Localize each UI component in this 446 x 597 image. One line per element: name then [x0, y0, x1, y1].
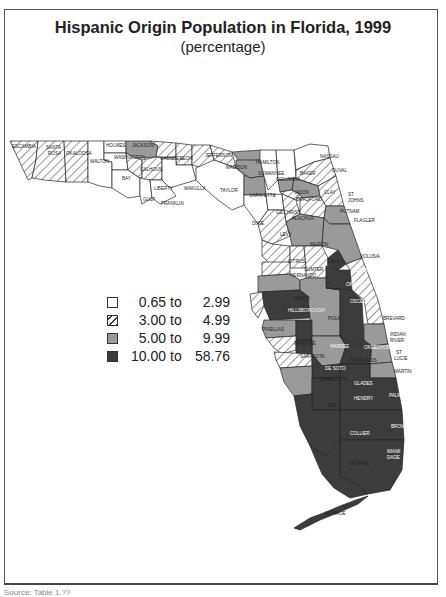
- svg-text:ESCAMBIA: ESCAMBIA: [12, 144, 37, 149]
- svg-text:CLAY: CLAY: [324, 190, 336, 195]
- svg-text:GULF: GULF: [143, 197, 155, 202]
- svg-text:MADISON: MADISON: [226, 165, 247, 170]
- svg-text:BAKER: BAKER: [300, 171, 316, 176]
- county-martin: [370, 362, 396, 378]
- svg-text:SUMTER: SUMTER: [304, 267, 324, 272]
- svg-text:GLADES: GLADES: [354, 381, 373, 386]
- county-citrus: [262, 240, 290, 264]
- svg-text:MONROE: MONROE: [325, 511, 346, 516]
- county-hillsborough: [262, 290, 310, 320]
- svg-text:RIVER: RIVER: [390, 338, 405, 343]
- svg-text:COLUMBIA: COLUMBIA: [276, 177, 301, 182]
- legend-swatch-light-gray: [107, 333, 118, 344]
- svg-text:DUVAL: DUVAL: [332, 168, 347, 173]
- svg-text:LIBERTY: LIBERTY: [154, 186, 173, 191]
- svg-text:POLK: POLK: [328, 316, 341, 321]
- svg-text:HARDEE: HARDEE: [330, 344, 349, 349]
- svg-text:SANTA: SANTA: [46, 145, 62, 150]
- svg-text:MONROE: MONROE: [349, 461, 370, 466]
- svg-text:WALTON: WALTON: [90, 159, 109, 164]
- svg-text:BROWARD: BROWARD: [391, 424, 416, 429]
- svg-text:WAKULLA: WAKULLA: [184, 186, 207, 191]
- county-sarasota: [266, 336, 296, 354]
- svg-text:UNION: UNION: [294, 190, 309, 195]
- svg-text:TAYLOR: TAYLOR: [220, 188, 238, 193]
- svg-text:PALM BEACH: PALM BEACH: [389, 393, 418, 398]
- county-hardee: [296, 320, 312, 340]
- svg-text:HIGHLANDS: HIGHLANDS: [350, 358, 377, 363]
- svg-text:PINELLAS: PINELLAS: [262, 327, 284, 332]
- svg-text:OSCEOLA: OSCEOLA: [350, 299, 373, 304]
- svg-text:PUTNAM: PUTNAM: [340, 209, 360, 214]
- county-pinellas: [250, 292, 264, 318]
- county-hernando: [262, 262, 290, 276]
- svg-text:SEMINOLE: SEMINOLE: [356, 268, 380, 273]
- svg-text:BAY: BAY: [122, 176, 131, 181]
- svg-text:LEVY: LEVY: [280, 232, 292, 237]
- county-okaloosa: [64, 141, 88, 182]
- map-legend: 0.65 to 2.99 3.00 to 4.99 5.00 to 9.99 1…: [107, 293, 230, 365]
- svg-text:COLLIER: COLLIER: [350, 431, 370, 436]
- svg-text:VOLUSIA: VOLUSIA: [360, 254, 381, 259]
- svg-text:HENDRY: HENDRY: [354, 396, 373, 401]
- county-leon: [176, 143, 192, 165]
- svg-text:JEFFERSON: JEFFERSON: [205, 153, 232, 158]
- svg-text:LEE: LEE: [328, 403, 337, 408]
- svg-text:BRADFORD: BRADFORD: [296, 197, 322, 202]
- svg-text:HERNANDO: HERNANDO: [290, 273, 317, 278]
- svg-text:FLAGLER: FLAGLER: [354, 218, 376, 223]
- svg-text:MANATEE: MANATEE: [294, 341, 316, 346]
- svg-text:ALACHUA: ALACHUA: [292, 216, 315, 221]
- svg-text:LUCIE: LUCIE: [394, 356, 408, 361]
- svg-text:CHARLOTTE: CHARLOTTE: [320, 377, 348, 382]
- svg-text:DE SOTO: DE SOTO: [325, 366, 346, 371]
- legend-item-2: 5.00 to 9.99: [107, 329, 230, 347]
- svg-text:ROSA: ROSA: [48, 151, 62, 156]
- svg-text:CALHOUN: CALHOUN: [140, 167, 162, 172]
- svg-text:ST: ST: [396, 350, 402, 355]
- svg-text:SUWANNEE: SUWANNEE: [258, 171, 284, 176]
- svg-text:HOLMES: HOLMES: [106, 143, 125, 148]
- legend-swatch-white: [107, 297, 118, 308]
- svg-text:JOHNS: JOHNS: [348, 198, 364, 203]
- svg-text:WASHINGTON: WASHINGTON: [114, 155, 145, 160]
- svg-text:SARASOTA: SARASOTA: [300, 354, 326, 359]
- svg-text:JACKSON: JACKSON: [132, 143, 154, 148]
- svg-text:LAKE: LAKE: [328, 259, 340, 264]
- svg-text:BREVARD: BREVARD: [383, 316, 406, 321]
- legend-item-1: 3.00 to 4.99: [107, 311, 230, 329]
- svg-text:FRANKLIN: FRANKLIN: [161, 201, 184, 206]
- svg-text:HILLSBOROUGH: HILLSBOROUGH: [288, 308, 325, 313]
- svg-text:DADE: DADE: [387, 455, 400, 460]
- legend-swatch-dark-gray: [107, 351, 118, 362]
- source-caption: Source: Table 1.??: [4, 588, 71, 597]
- legend-item-0: 0.65 to 2.99: [107, 293, 230, 311]
- svg-text:MIAMI: MIAMI: [387, 449, 400, 454]
- county-indian-river: [364, 324, 388, 346]
- svg-text:NASSAU: NASSAU: [320, 154, 339, 159]
- svg-text:MARTIN: MARTIN: [394, 369, 412, 374]
- svg-text:MARION: MARION: [310, 242, 328, 247]
- legend-swatch-hatched: [107, 315, 118, 326]
- legend-item-3: 10.00 to 58.76: [107, 347, 230, 365]
- svg-text:CITRUS: CITRUS: [288, 259, 305, 264]
- svg-text:DIXIE: DIXIE: [252, 221, 264, 226]
- svg-text:LEON: LEON: [180, 156, 193, 161]
- county-sumter: [290, 246, 306, 268]
- svg-text:LAFAYETTE: LAFAYETTE: [250, 193, 276, 198]
- county-lee: [280, 366, 312, 396]
- svg-text:OKEECHOBEE: OKEECHOBEE: [364, 345, 396, 350]
- svg-text:OKALOOSA: OKALOOSA: [66, 151, 92, 156]
- svg-text:ORANGE: ORANGE: [346, 282, 366, 287]
- svg-text:GILCHRIST: GILCHRIST: [276, 210, 301, 215]
- svg-text:ST: ST: [348, 192, 354, 197]
- svg-text:PASCO: PASCO: [294, 296, 310, 301]
- svg-text:INDIAN: INDIAN: [390, 332, 406, 337]
- county-lafayette: [244, 175, 266, 195]
- svg-text:HAMILTON: HAMILTON: [256, 160, 279, 165]
